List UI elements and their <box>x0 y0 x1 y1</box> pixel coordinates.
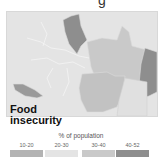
legend-swatch <box>116 150 149 157</box>
choropleth-map <box>7 12 157 116</box>
map-title-line2: insecurity <box>10 115 62 126</box>
legend-label: 40-52 <box>116 142 149 148</box>
legend-label: 20-30 <box>45 142 78 148</box>
legend-item: 10-20 <box>10 142 43 158</box>
legend-swatch <box>10 150 43 157</box>
legend-item: 30-40 <box>82 142 115 158</box>
legend-label: 10-20 <box>10 142 43 148</box>
map-frame <box>6 11 158 117</box>
map-title: Food insecurity <box>10 104 62 126</box>
legend-swatch <box>45 150 78 157</box>
legend-swatch <box>82 150 115 157</box>
legend-title: % of population <box>6 132 156 139</box>
legend-label: 30-40 <box>82 142 115 148</box>
legend-item: 40-52 <box>116 142 149 158</box>
legend: % of population 10-20 20-30 30-40 40-52 <box>6 131 156 161</box>
legend-item: 20-30 <box>45 142 78 158</box>
cropped-title-fragment: g <box>98 0 106 8</box>
